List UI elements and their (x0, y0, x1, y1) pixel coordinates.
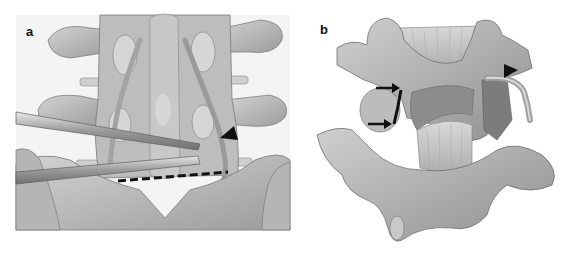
figure-panel-b: b (292, 0, 575, 255)
posterior-spine-illustration (0, 0, 292, 255)
lower-intervertebral-disc (417, 121, 472, 171)
dorsal-root-ganglion (482, 78, 512, 140)
figure-panel-a: a (0, 0, 292, 255)
panel-label-b: b (320, 22, 328, 37)
oblique-vertebra-illustration (292, 0, 575, 255)
panel-label-a: a (26, 24, 33, 39)
